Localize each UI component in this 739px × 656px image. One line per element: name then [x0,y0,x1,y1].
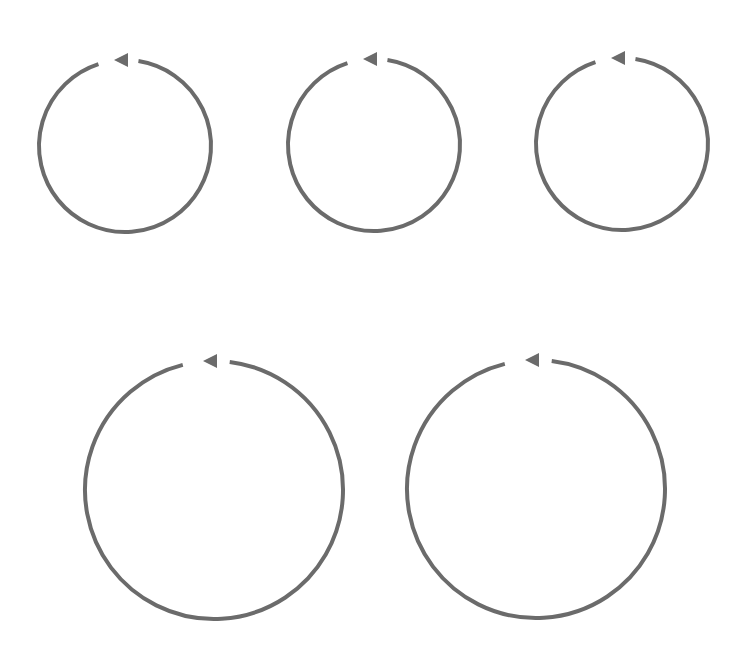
arrowhead-icon [363,52,377,66]
cycle-ring [39,61,211,232]
cycle-arrow-5 [407,353,665,618]
arrowhead-icon [525,353,539,367]
arrowhead-icon [203,354,217,368]
arrowhead-icon [611,51,625,65]
cycle-arrow-2 [288,52,460,231]
cycle-ring [536,59,708,230]
cycle-diagram-canvas [0,0,739,656]
cycle-ring [407,361,665,618]
arrowhead-icon [114,53,128,67]
cycle-arrow-3 [536,51,708,230]
cycle-arrow-1 [39,53,211,232]
cycle-arrow-4 [85,354,343,619]
cycle-ring [288,60,460,231]
cycle-ring [85,362,343,619]
